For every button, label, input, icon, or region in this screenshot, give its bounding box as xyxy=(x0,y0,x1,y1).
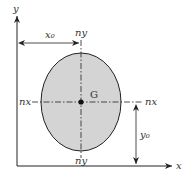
ny-top-label: ny xyxy=(75,27,87,38)
centroid-point xyxy=(78,99,83,104)
nx-right-label: nx xyxy=(145,96,157,107)
centroid-label: G xyxy=(90,89,98,100)
centroid-diagram: y x ny ny nx nx G x₀ y₀ xyxy=(0,0,184,178)
y-axis-label: y xyxy=(12,3,19,14)
ny-bottom-label: ny xyxy=(75,155,87,166)
y0-label: y₀ xyxy=(139,129,150,140)
x0-label: x₀ xyxy=(45,29,55,40)
x-axis-label: x xyxy=(176,160,182,171)
nx-left-label: nx xyxy=(19,96,31,107)
